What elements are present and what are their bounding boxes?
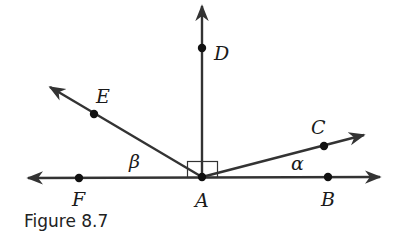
label-beta: β xyxy=(128,150,140,172)
figure-caption: Figure 8.7 xyxy=(24,211,108,231)
ray-ae xyxy=(50,87,202,177)
point-e xyxy=(90,110,98,118)
label-f: F xyxy=(71,188,86,210)
label-alpha: α xyxy=(291,152,304,174)
ray-ac xyxy=(202,135,364,177)
point-d xyxy=(198,44,206,52)
point-f xyxy=(75,174,83,182)
label-c: C xyxy=(311,116,326,138)
label-b: B xyxy=(320,188,335,210)
point-b xyxy=(324,173,332,181)
point-a xyxy=(198,173,206,181)
label-a: A xyxy=(193,189,209,211)
geometry-figure: A B C D E F β α xyxy=(0,0,407,236)
point-c xyxy=(320,142,328,150)
label-d: D xyxy=(213,42,229,64)
label-e: E xyxy=(95,85,110,107)
